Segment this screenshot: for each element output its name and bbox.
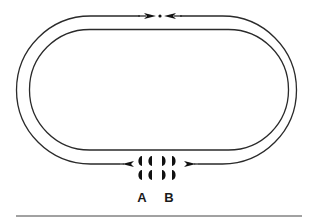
inner-track-line [30, 30, 289, 151]
group-a-label: A [137, 190, 147, 205]
bottom-junction-marker [120, 160, 198, 168]
half-disc-icon [162, 170, 166, 180]
group-b-label: B [164, 190, 173, 205]
racetrack-diagram: A B [0, 0, 312, 218]
junction-dot-icon [158, 14, 161, 17]
half-disc-icon [138, 170, 142, 180]
top-junction-marker [138, 12, 182, 20]
half-disc-icon [172, 170, 176, 180]
half-disc-icon [148, 170, 152, 180]
